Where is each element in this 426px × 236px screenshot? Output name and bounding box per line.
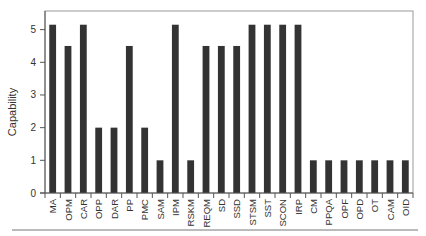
bar-opp	[95, 128, 102, 193]
bar-irp	[295, 25, 302, 193]
x-tick-label: OPF	[339, 199, 350, 219]
x-tick-label: CAR	[78, 199, 89, 219]
x-tick-label: OPD	[354, 199, 365, 220]
bar-ppqa	[325, 160, 332, 193]
bar-cam	[387, 160, 394, 193]
x-tick-label: REQM	[201, 199, 212, 228]
bar-cm	[310, 160, 317, 193]
x-tick-label: SST	[262, 199, 273, 218]
bar-oid	[402, 160, 409, 193]
x-tick-label: OPP	[93, 199, 104, 219]
x-tick-label: SD	[216, 199, 227, 212]
bar-pp	[126, 46, 133, 193]
x-tick-label: RSKM	[185, 199, 196, 227]
bar-reqm	[203, 46, 210, 193]
x-tick-label: CAM	[385, 199, 396, 220]
x-tick-label: OID	[400, 199, 411, 216]
x-tick-label: IPM	[170, 199, 181, 216]
x-tick-label: CM	[308, 199, 319, 214]
bar-opf	[341, 160, 348, 193]
x-tick-label: STSM	[247, 199, 258, 225]
y-tick-label: 0	[30, 188, 36, 199]
bar-opm	[65, 46, 72, 193]
bar-stsm	[249, 25, 256, 193]
bar-opd	[356, 160, 363, 193]
y-tick-label: 4	[30, 57, 36, 68]
y-axis-label: Capability	[6, 87, 18, 136]
y-tick-label: 5	[30, 24, 36, 35]
y-axis: 012345	[30, 11, 45, 199]
bar-ma	[49, 25, 56, 193]
x-tick-label: PMC	[139, 199, 150, 220]
y-tick-label: 1	[30, 155, 36, 166]
x-tick-label: SSD	[231, 199, 242, 219]
x-axis: MAOPMCAROPPDARPPPMCSAMIPMRSKMREQMSDSSDST…	[40, 193, 413, 228]
x-tick-label: OT	[369, 199, 380, 212]
bar-car	[80, 25, 87, 193]
x-tick-label: SAM	[155, 199, 166, 220]
bar-ssd	[233, 46, 240, 193]
y-tick-label: 2	[30, 122, 36, 133]
bar-sam	[157, 160, 164, 193]
x-tick-label: PP	[124, 199, 135, 212]
x-tick-label: PPQA	[323, 198, 334, 225]
bar-scon	[279, 25, 286, 193]
x-tick-label: DAR	[109, 199, 120, 219]
bar-rskm	[187, 160, 194, 193]
x-tick-label: IRP	[293, 199, 304, 215]
x-tick-label: MA	[47, 198, 58, 213]
x-tick-label: OPM	[63, 199, 74, 221]
bar-sd	[218, 46, 225, 193]
y-tick-label: 3	[30, 89, 36, 100]
capability-bar-chart: 012345 MAOPMCAROPPDARPPPMCSAMIPMRSKMREQM…	[0, 0, 426, 236]
bar-ot	[371, 160, 378, 193]
bar-sst	[264, 25, 271, 193]
bars	[49, 25, 408, 193]
bar-pmc	[141, 128, 148, 193]
bar-dar	[111, 128, 118, 193]
bar-ipm	[172, 25, 179, 193]
x-tick-label: SCON	[277, 199, 288, 227]
